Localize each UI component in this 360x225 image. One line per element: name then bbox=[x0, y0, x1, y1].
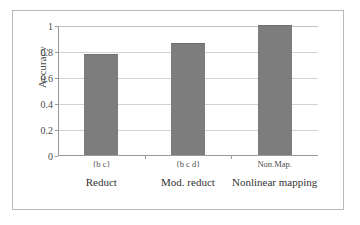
y-tick-label: 1 bbox=[48, 21, 53, 32]
y-tick-label: 0.8 bbox=[41, 47, 54, 58]
x-category-caption: Mod. reduct bbox=[145, 174, 232, 190]
figure-container: Accuracy 00.20.40.60.81 {b c}Reduct{b c … bbox=[0, 0, 360, 225]
bar[interactable] bbox=[84, 54, 118, 155]
y-tick-label: 0.6 bbox=[41, 73, 54, 84]
y-tick-label: 0.4 bbox=[41, 99, 54, 110]
bar[interactable] bbox=[171, 43, 205, 155]
y-tick-label: 0 bbox=[48, 151, 53, 162]
bar[interactable] bbox=[258, 25, 292, 155]
x-tick-label: {b c} bbox=[58, 158, 145, 171]
x-category-caption: Nonlinear mapping bbox=[231, 174, 318, 190]
y-axis-line bbox=[58, 26, 59, 156]
x-axis-line bbox=[58, 155, 318, 156]
x-axis-label-group: {b c d}Mod. reduct bbox=[145, 158, 232, 190]
x-axis-labels-group: {b c}Reduct{b c d}Mod. reductNon.Map.Non… bbox=[58, 158, 318, 204]
x-axis-label-group: {b c}Reduct bbox=[58, 158, 145, 190]
x-tick-label: Non.Map. bbox=[231, 158, 318, 171]
x-axis-label-group: Non.Map.Nonlinear mapping bbox=[231, 158, 318, 190]
y-tick-mark bbox=[55, 156, 58, 157]
x-tick-label: {b c d} bbox=[145, 158, 232, 171]
y-axis-title: Accuracy bbox=[37, 27, 53, 107]
figure-border: Accuracy 00.20.40.60.81 {b c}Reduct{b c … bbox=[12, 10, 344, 210]
y-tick-label: 0.2 bbox=[41, 125, 54, 136]
x-category-caption: Reduct bbox=[58, 174, 145, 190]
plot-area: 00.20.40.60.81 bbox=[58, 26, 318, 156]
